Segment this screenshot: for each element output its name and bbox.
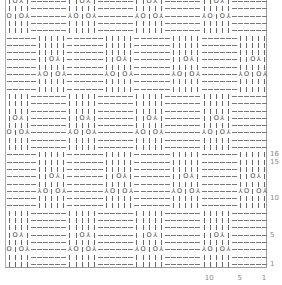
stitch-purl: [30, 13, 36, 20]
stitch-purl: [43, 13, 49, 20]
stitch-knit: [171, 166, 177, 173]
stitch-knit: [49, 71, 55, 78]
stitch-purl: [91, 180, 97, 187]
stitch-knit: [85, 5, 91, 12]
stitch-purl: [67, 202, 73, 209]
stitch-knit: [43, 78, 49, 85]
stitch-purl: [171, 122, 177, 129]
stitch-purl: [91, 49, 97, 56]
stitch-purl: [213, 188, 219, 195]
stitch-purl: [152, 49, 158, 56]
stitch-purl: [146, 78, 152, 85]
stitch-knit: [146, 144, 152, 151]
stitch-knit: [171, 202, 177, 209]
stitch-knit: [6, 27, 12, 34]
stitch-knit: [250, 180, 256, 187]
stitch-dec: ⅄: [201, 13, 207, 20]
stitch-purl: [43, 217, 49, 224]
stitch-purl: [97, 246, 103, 253]
stitch-dec: ⅄: [262, 188, 268, 195]
stitch-purl: [30, 217, 36, 224]
stitch-purl: [103, 27, 109, 34]
stitch-knit: [201, 122, 207, 129]
stitch-knit: [128, 78, 134, 85]
stitch-knit: [85, 27, 91, 34]
stitch-knit: [128, 166, 134, 173]
stitch-knit: [67, 100, 73, 107]
stitch-purl: [219, 188, 225, 195]
stitch-purl: [244, 93, 250, 100]
stitch-knit: [79, 107, 85, 114]
stitch-purl: [140, 34, 146, 41]
stitch-purl: [36, 20, 42, 27]
stitch-purl: [164, 71, 170, 78]
stitch-yo: O: [85, 246, 91, 253]
stitch-purl: [146, 202, 152, 209]
stitch-purl: [164, 100, 170, 107]
stitch-purl: [244, 137, 250, 144]
stitch-purl: [43, 129, 49, 136]
stitch-yo: O: [43, 188, 49, 195]
stitch-knit: [49, 195, 55, 202]
stitch-knit: [43, 151, 49, 158]
stitch-purl: [6, 166, 12, 173]
stitch-purl: [97, 71, 103, 78]
stitch-knit: [6, 261, 12, 268]
stitch-purl: [134, 173, 140, 180]
stitch-purl: [262, 246, 268, 253]
stitch-purl: [103, 122, 109, 129]
stitch-knit: [55, 49, 61, 56]
stitch-knit: [189, 151, 195, 158]
stitch-purl: [97, 122, 103, 129]
stitch-knit: [183, 188, 189, 195]
stitch-knit: [61, 202, 67, 209]
stitch-purl: [177, 122, 183, 129]
stitch-knit: [36, 56, 42, 63]
stitch-purl: [231, 34, 237, 41]
stitch-knit: [207, 217, 213, 224]
stitch-yo: O: [6, 246, 12, 253]
stitch-knit: [140, 0, 146, 5]
stitch-knit: [262, 180, 268, 187]
stitch-purl: [103, 217, 109, 224]
stitch-purl: [164, 151, 170, 158]
stitch-purl: [238, 0, 244, 5]
stitch-knit: [238, 56, 244, 63]
stitch-knit: [110, 202, 116, 209]
stitch-knit: [140, 93, 146, 100]
stitch-purl: [201, 166, 207, 173]
stitch-knit: [91, 0, 97, 5]
stitch-knit: [6, 232, 12, 239]
stitch-dec: ⅄: [55, 56, 61, 63]
stitch-purl: [128, 224, 134, 231]
stitch-knit: [79, 224, 85, 231]
stitch-knit: [158, 5, 164, 12]
stitch-knit: [134, 253, 140, 260]
stitch-purl: [12, 166, 18, 173]
stitch-knit: [12, 100, 18, 107]
stitch-knit: [250, 64, 256, 71]
stitch-purl: [213, 78, 219, 85]
stitch-knit: [146, 13, 152, 20]
stitch-knit: [262, 49, 268, 56]
stitch-purl: [18, 173, 24, 180]
stitch-knit: [250, 188, 256, 195]
stitch-purl: [134, 195, 140, 202]
stitch-yo: O: [177, 188, 183, 195]
stitch-purl: [231, 56, 237, 63]
stitch-purl: [12, 173, 18, 180]
stitch-purl: [85, 42, 91, 49]
stitch-purl: [256, 253, 262, 260]
stitch-knit: [6, 210, 12, 217]
stitch-knit: [201, 0, 207, 5]
stitch-purl: [49, 93, 55, 100]
stitch-knit: [213, 253, 219, 260]
stitch-purl: [97, 0, 103, 5]
stitch-purl: [177, 246, 183, 253]
stitch-purl: [195, 261, 201, 268]
stitch-yo: O: [219, 13, 225, 20]
stitch-purl: [171, 253, 177, 260]
stitch-knit: [244, 151, 250, 158]
stitch-knit: [262, 166, 268, 173]
stitch-knit: [146, 261, 152, 268]
